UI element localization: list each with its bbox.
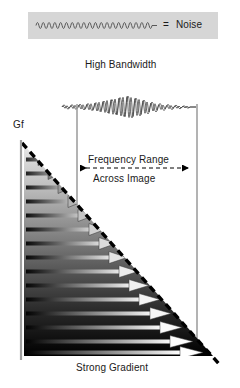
high-bandwidth-waveform (62, 96, 196, 118)
legend-noise-label: Noise (176, 20, 202, 30)
across-image-label: Across Image (93, 174, 155, 184)
frequency-range-label: Frequency Range (88, 155, 169, 165)
gf-axis-label: Gf (13, 120, 24, 130)
high-bandwidth-label: High Bandwidth (85, 60, 156, 70)
legend-equals-sign: = (163, 20, 169, 30)
strong-gradient-label: Strong Gradient (76, 363, 148, 373)
